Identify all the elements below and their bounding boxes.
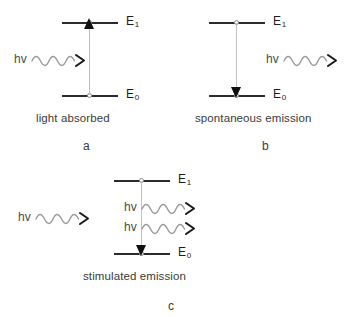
transition-line-down xyxy=(236,23,237,94)
panel-a-letter: a xyxy=(83,139,90,153)
upper-level-text: E xyxy=(126,14,134,28)
transition-arrowhead-up xyxy=(84,18,94,29)
photon-wave-icon xyxy=(35,208,95,226)
transition-arrowhead-down xyxy=(231,87,241,98)
panel-a-light-absorbed: E1 E0 hv light absorbed a xyxy=(0,0,176,160)
upper-level-subscript: 1 xyxy=(282,20,287,29)
panel-b-spontaneous-emission: E1 E0 hv spontaneous emission b xyxy=(176,0,351,160)
panel-c-stimulated-emission: E1 E0 hv hv hv xyxy=(88,160,264,317)
lower-level-subscript: 0 xyxy=(187,251,192,260)
incoming-photon-c: hv xyxy=(18,208,95,226)
incoming-photon-a: hv xyxy=(14,50,91,68)
upper-level-subscript: 1 xyxy=(135,20,140,29)
photon-label: hv xyxy=(124,200,137,214)
transition-arrowhead-down xyxy=(136,245,146,256)
photon-label: hv xyxy=(18,210,31,224)
photon-wave-icon xyxy=(141,218,201,236)
panel-a-caption: light absorbed xyxy=(36,112,110,124)
photon-label: hv xyxy=(124,220,137,234)
outgoing-photon-b: hv xyxy=(266,50,343,68)
transition-line-down xyxy=(141,181,142,252)
lower-energy-level-label: E0 xyxy=(126,87,139,101)
upper-level-text: E xyxy=(178,172,186,186)
upper-energy-level-label: E1 xyxy=(273,14,286,28)
photon-wave-icon xyxy=(283,50,343,68)
panel-c-letter: c xyxy=(168,299,174,313)
photon-label: hv xyxy=(14,52,27,66)
lower-level-subscript: 0 xyxy=(135,93,140,102)
lower-level-subscript: 0 xyxy=(282,93,287,102)
upper-level-subscript: 1 xyxy=(187,178,192,187)
lower-level-text: E xyxy=(126,87,134,101)
panel-b-letter: b xyxy=(262,139,269,153)
upper-energy-level-label: E1 xyxy=(126,14,139,28)
panel-b-caption: spontaneous emission xyxy=(195,112,311,124)
outgoing-photon-c-2: hv xyxy=(124,218,201,236)
upper-level-text: E xyxy=(273,14,281,28)
outgoing-photon-c-1: hv xyxy=(124,198,201,216)
photon-wave-icon xyxy=(141,198,201,216)
lower-level-text: E xyxy=(178,245,186,259)
lower-energy-level-label: E0 xyxy=(273,87,286,101)
photon-label: hv xyxy=(266,52,279,66)
energy-level-diagram: E1 E0 hv light absorbed a E1 xyxy=(0,0,351,317)
lower-energy-level-label: E0 xyxy=(178,245,191,259)
panel-c-caption: stimulated emission xyxy=(83,270,186,282)
lower-level-text: E xyxy=(273,87,281,101)
photon-wave-icon xyxy=(31,50,91,68)
upper-energy-level-label: E1 xyxy=(178,172,191,186)
